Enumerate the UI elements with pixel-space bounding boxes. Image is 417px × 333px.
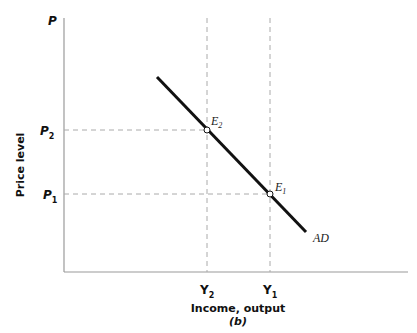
x-tick-y2: Y2 — [199, 283, 214, 300]
ad-chart: E2 E1 AD P P2 P1 Y2 Y1 Price level Incom… — [0, 0, 417, 333]
equilibrium-e2-marker — [204, 127, 210, 133]
e2-label: E2 — [210, 114, 222, 130]
panel-label: (b) — [229, 315, 247, 328]
ad-curve-label: AD — [312, 231, 329, 245]
x-tick-y1: Y1 — [262, 283, 278, 300]
y-axis-symbol: P — [48, 14, 57, 28]
ad-curve — [157, 77, 306, 232]
y-tick-p1: P1 — [43, 188, 58, 205]
y-axis-label: Price level — [14, 133, 27, 198]
y-tick-p2: P2 — [40, 124, 54, 141]
equilibrium-e1-marker — [267, 191, 273, 197]
x-axis-label: Income, output — [191, 302, 286, 315]
e1-label: E1 — [274, 180, 286, 196]
